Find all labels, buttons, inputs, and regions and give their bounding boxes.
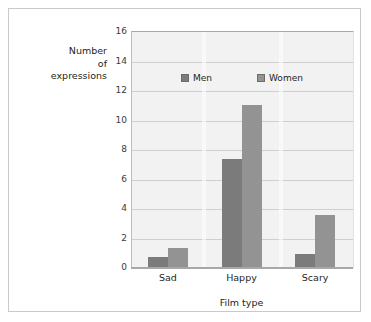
- bar-men-sad: [148, 257, 168, 267]
- legend-label: Women: [269, 73, 303, 83]
- bar-men-scary: [295, 254, 315, 267]
- legend-entry-women: Women: [257, 73, 303, 83]
- x-axis-title: Film type: [131, 297, 352, 308]
- y-axis-tick-label: 16: [101, 27, 127, 36]
- y-axis-tick-label: 2: [101, 233, 127, 242]
- x-axis-line: [131, 267, 353, 269]
- y-axis-tick-label: 8: [101, 145, 127, 154]
- legend-swatch-icon: [181, 74, 189, 82]
- y-axis-tick-label: 4: [101, 204, 127, 213]
- y-axis-title-line-1: Number: [23, 45, 107, 58]
- y-axis-tick-label: 0: [101, 263, 127, 272]
- chart-legend: MenWomen: [131, 73, 352, 87]
- bars-layer: [131, 31, 352, 267]
- legend-label: Men: [193, 73, 212, 83]
- y-axis-tick-label: 6: [101, 174, 127, 183]
- legend-entry-men: Men: [181, 73, 212, 83]
- category-label-sad: Sad: [131, 272, 205, 283]
- y-axis-tick-label: 10: [101, 115, 127, 124]
- x-axis-category-labels: SadHappyScary: [131, 272, 352, 288]
- bar-men-happy: [222, 159, 242, 267]
- bar-women-happy: [242, 105, 262, 267]
- chart-figure-frame: Number of expressions 0246810121416 MenW…: [8, 8, 361, 312]
- bar-women-scary: [315, 215, 335, 267]
- y-axis-tick-label: 14: [101, 56, 127, 65]
- y-axis-title-line-2: of: [23, 58, 107, 71]
- y-axis-title-line-3: expressions: [23, 70, 107, 83]
- category-label-scary: Scary: [278, 272, 352, 283]
- y-axis-title: Number of expressions: [23, 45, 107, 83]
- category-label-happy: Happy: [205, 272, 279, 283]
- y-axis-tick-labels: 0246810121416: [99, 31, 127, 267]
- y-axis-tick-label: 12: [101, 86, 127, 95]
- bar-women-sad: [168, 248, 188, 267]
- legend-swatch-icon: [257, 74, 265, 82]
